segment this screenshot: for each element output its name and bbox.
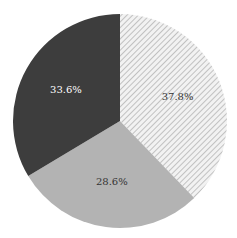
pie-chart: 37.8%28.6%33.6% <box>0 0 237 238</box>
slice-label: 28.6% <box>96 176 128 187</box>
slice-label: 33.6% <box>50 84 82 95</box>
slice-label: 37.8% <box>162 91 194 102</box>
